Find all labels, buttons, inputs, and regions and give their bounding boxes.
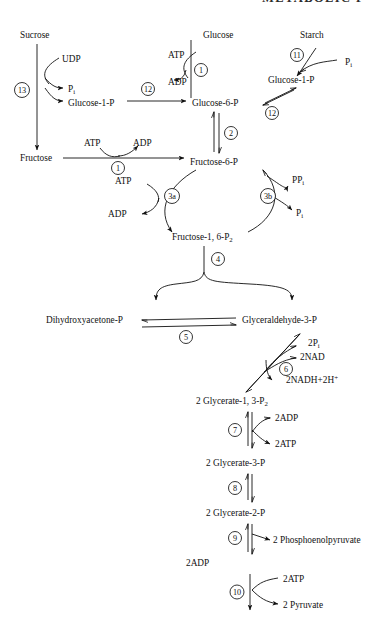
molecule-2atp-pgk: 2ATP	[275, 439, 296, 449]
arrow-2nadh-out	[266, 360, 272, 380]
molecule-ppi: PPi	[292, 175, 304, 186]
molecule-sucrose: Sucrose	[20, 30, 49, 40]
molecule-pep: 2ADP	[186, 558, 209, 568]
step-8-number: 8	[233, 484, 237, 493]
molecule-g3p: Glyceraldehyde-3-P	[242, 315, 317, 325]
fructokinase-branch: 1	[63, 146, 184, 175]
step-5-group: 5	[142, 318, 236, 344]
step-6-number: 6	[284, 365, 288, 374]
molecule-atp-hk: ATP	[168, 50, 185, 60]
arrow-2atp-out-pgk	[252, 430, 270, 444]
molecule-2adp-pgk: 2ADP	[275, 413, 298, 423]
molecule-pi-sucrose: Pi	[68, 84, 75, 95]
arrow-adp-out-pfk	[142, 198, 159, 214]
pathway-page: METABOLIC P 13 Sucrose UDP Pi Glucose-1-…	[0, 0, 375, 644]
molecule-pi-starch: Pi	[345, 57, 352, 68]
molecule-glucose-1-p-right: Glucose-1-P	[268, 75, 314, 85]
molecule-fructose: Fructose	[20, 153, 52, 163]
glucose-branch: 1	[174, 40, 208, 98]
molecule-dhap: Dihydroxyacetone-P	[46, 315, 123, 325]
step-10-group: 10	[230, 574, 278, 610]
molecule-fructose-1-6-p2: Fructose-1, 6-P2	[172, 232, 233, 243]
molecule-2nad: 2NAD	[300, 352, 325, 362]
molecule-starch: Starch	[300, 30, 324, 40]
step-11-number: 11	[293, 51, 301, 60]
molecule-adp-hk: ADP	[168, 77, 187, 87]
arrow-2adp-in-pk	[252, 578, 278, 590]
step-3b-group: 3b	[248, 170, 292, 232]
step-7-number: 7	[233, 426, 237, 435]
molecule-2atp-pk: 2 Pyruvate	[283, 600, 323, 610]
molecule-2adp-pk: 2ATP	[283, 574, 304, 584]
arrow-ppi-out	[267, 176, 288, 188]
arrow-g3p-to-dhap	[142, 318, 236, 320]
molecule-atp-pfk: ATP	[115, 176, 132, 186]
molecule-udp: UDP	[62, 54, 81, 64]
step-2-number: 2	[229, 129, 233, 138]
step-4-number: 4	[216, 255, 220, 264]
molecule-2nadh: 2NADH+2H+	[286, 374, 338, 385]
step-1b-number: 1	[116, 164, 120, 173]
arrow-atp-in-hk	[184, 52, 196, 78]
molecule-2pi: 2Pi	[308, 338, 320, 349]
step-4-group: 4	[156, 246, 292, 300]
molecule-glucose: Glucose	[203, 30, 233, 40]
molecule-glycerate-2-p: 2 Glycerate-2-P	[206, 508, 265, 518]
step-3a-group: 3a	[142, 170, 196, 232]
pathway-diagram: 13 Sucrose UDP Pi Glucose-1-P Fructose 1…	[0, 0, 375, 644]
step-8-group: 8	[229, 474, 253, 502]
molecule-fructose-6-p: Fructose-6-P	[190, 157, 238, 167]
step-12b-number: 12	[268, 109, 276, 118]
molecule-glycerate-1-3-p2: 2 Glycerate-1, 3-P2	[196, 396, 268, 407]
arrow-atp-in-fk	[100, 148, 120, 157]
molecule-glucose-1-p-left: Glucose-1-P	[68, 98, 114, 108]
step-12a-number: 12	[144, 85, 152, 94]
arrow-2atp-out-pk	[252, 590, 278, 604]
molecule-adp-fk: ADP	[133, 138, 152, 148]
step-9-number: 9	[233, 534, 237, 543]
sucrose-branch: 13	[15, 44, 64, 150]
arrow-dhap-to-g3p	[142, 325, 236, 327]
arrow-pi-starch	[300, 60, 337, 72]
arrow-g6p-to-g1p-diag	[265, 88, 296, 103]
molecule-glucose-6-p: Glucose-6-P	[192, 98, 238, 108]
arrow-fork-to-g3p	[204, 272, 292, 300]
molecule-atp-fk: ATP	[84, 138, 101, 148]
step-2-group: 2	[214, 112, 238, 153]
arrow-atp-in-pfk	[147, 184, 159, 202]
step-13-number: 13	[18, 86, 26, 95]
arrow-g1p-to-g6p-diag	[263, 90, 294, 105]
arrow-2h2o-out	[252, 534, 270, 540]
starch-branch: 11	[291, 48, 338, 76]
molecule-2h2o: 2 Phosphoenolpyruvate	[273, 535, 361, 545]
arrow-2adp-in-pgk	[252, 418, 270, 432]
step-12-right: 12	[263, 88, 296, 120]
step-9-group: 9	[229, 524, 271, 554]
step-10-number: 10	[233, 588, 241, 597]
step-3a-number: 3a	[168, 192, 176, 201]
arrow-to-glucose1p	[45, 88, 63, 101]
step-1a-number: 1	[199, 66, 203, 75]
step-3b-number: 3b	[264, 192, 272, 201]
molecule-glycerate-3-p: 2 Glycerate-3-P	[206, 458, 265, 468]
molecule-adp-pfk: ADP	[108, 209, 127, 219]
arrow-fork-to-dhap	[156, 272, 204, 300]
molecule-pi-pfp: Pi	[296, 208, 303, 219]
step-5-number: 5	[184, 333, 188, 342]
step-7-group: 7	[229, 412, 271, 448]
